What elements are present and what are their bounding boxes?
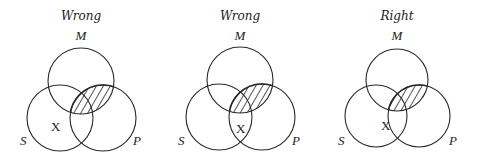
label-s: S [20,133,27,148]
label-m: M [75,28,88,43]
label-s: S [178,133,185,148]
diagram-wrong-1: Wrong M X S P [20,9,141,151]
circle-s [27,85,93,151]
diagram-right: Right M X S P [338,9,457,148]
diagram-title: Right [379,9,413,23]
diagram-title: Wrong [220,9,260,23]
label-m: M [391,28,404,43]
x-mark: X [236,121,246,136]
circle-s [345,85,407,147]
label-p: P [291,133,300,148]
venn-diagrams: Wrong M X S P Wrong M X S P Right M X S … [0,0,477,164]
diagram-title: Wrong [61,9,101,23]
label-p: P [448,133,457,148]
x-mark: X [51,119,61,134]
label-p: P [132,133,141,148]
label-s: S [338,133,345,148]
circle-s [186,84,252,150]
diagram-wrong-2: Wrong M X S P [178,9,300,150]
label-m: M [234,28,247,43]
x-mark: X [381,118,391,133]
